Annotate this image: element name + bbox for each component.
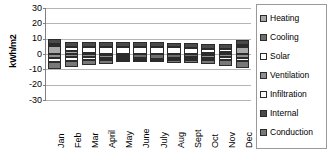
legend-item-label: Cooling bbox=[270, 33, 299, 42]
y-tick-label: -20 bbox=[14, 80, 42, 89]
bar-segment bbox=[150, 47, 164, 54]
bar-segment bbox=[150, 60, 164, 62]
legend-item-heating[interactable]: Heating bbox=[260, 9, 324, 28]
bar-segment bbox=[116, 47, 130, 54]
bar-column bbox=[116, 8, 130, 100]
x-tick-label: July bbox=[160, 132, 169, 148]
bar-column bbox=[48, 8, 62, 100]
bar-column bbox=[65, 8, 79, 100]
x-tick-label: Dec bbox=[245, 132, 254, 148]
y-tick-label: 30 bbox=[14, 4, 42, 13]
bar-column bbox=[167, 8, 181, 100]
bar-column bbox=[236, 8, 250, 100]
x-tick-label: May bbox=[125, 131, 134, 148]
bar-segment bbox=[48, 62, 62, 69]
legend-item-infiltration[interactable]: Infiltration bbox=[260, 85, 324, 104]
bar-segment bbox=[167, 43, 181, 48]
legend-item-label: Internal bbox=[270, 109, 298, 118]
bar-segment bbox=[201, 49, 215, 53]
bar-segment bbox=[133, 42, 147, 47]
bar-column bbox=[150, 8, 164, 100]
y-tick-label: -10 bbox=[14, 65, 42, 74]
x-tick-label: Sept bbox=[194, 129, 203, 148]
legend-swatch-icon bbox=[260, 91, 267, 98]
bar-segment bbox=[82, 47, 96, 52]
x-tick-label: Nov bbox=[228, 132, 237, 148]
x-tick-label: April bbox=[108, 130, 117, 148]
x-tick-label: June bbox=[142, 128, 151, 148]
legend-swatch-icon bbox=[260, 129, 267, 136]
bar-segment bbox=[184, 43, 198, 48]
legend-item-ventilation[interactable]: Ventilation bbox=[260, 66, 324, 85]
bar-column bbox=[184, 8, 198, 100]
bar-segment bbox=[133, 60, 147, 62]
bar-column bbox=[219, 8, 233, 100]
bar-segment bbox=[167, 47, 181, 54]
legend-swatch-icon bbox=[260, 53, 267, 60]
chart-legend: HeatingCoolingSolarVentilationInfiltrati… bbox=[256, 4, 327, 149]
bar-segment bbox=[99, 42, 113, 47]
bar-segment bbox=[236, 47, 250, 54]
bar-segment bbox=[236, 45, 250, 47]
bar-column bbox=[82, 8, 96, 100]
bar-segment bbox=[219, 60, 233, 66]
legend-swatch-icon bbox=[260, 15, 267, 22]
legend-item-solar[interactable]: Solar bbox=[260, 47, 324, 66]
legend-item-label: Heating bbox=[270, 14, 299, 23]
x-tick-label: Aug bbox=[177, 132, 186, 148]
legend-item-label: Solar bbox=[270, 52, 290, 61]
y-tick-label: 10 bbox=[14, 34, 42, 43]
bar-segment bbox=[201, 60, 215, 64]
x-tick-label: Feb bbox=[74, 132, 83, 148]
bar-segment bbox=[219, 49, 233, 52]
x-tick-label: Jan bbox=[57, 133, 66, 148]
bar-segment bbox=[133, 47, 147, 54]
bar-segment bbox=[99, 47, 113, 53]
plot-area bbox=[45, 8, 250, 100]
legend-swatch-icon bbox=[260, 72, 267, 79]
legend-item-internal[interactable]: Internal bbox=[260, 104, 324, 123]
legend-item-label: Conduction bbox=[270, 128, 313, 137]
bar-segment bbox=[167, 60, 181, 62]
bar-column bbox=[99, 8, 113, 100]
bar-segment bbox=[65, 42, 79, 47]
bar-segment bbox=[236, 61, 250, 68]
bars-layer bbox=[46, 8, 251, 100]
x-axis-tick-labels: JanFebMarAprilMayJuneJulyAugSeptOctNovDe… bbox=[45, 100, 250, 153]
stacked-column-chart: kWh/m2 3020100-10-20-30 JanFebMarAprilMa… bbox=[0, 0, 330, 153]
y-tick-label: 20 bbox=[14, 19, 42, 28]
x-tick-label: Mar bbox=[91, 133, 100, 149]
legend-item-cooling[interactable]: Cooling bbox=[260, 28, 324, 47]
bar-segment bbox=[219, 44, 233, 49]
bar-segment bbox=[236, 40, 250, 45]
bar-segment bbox=[201, 44, 215, 49]
bar-segment bbox=[99, 60, 113, 64]
y-tick-label: 0 bbox=[14, 50, 42, 59]
legend-item-conduction[interactable]: Conduction bbox=[260, 123, 324, 142]
x-tick-label: Oct bbox=[211, 134, 220, 148]
bar-segment bbox=[82, 60, 96, 65]
bar-segment bbox=[116, 42, 130, 47]
bar-segment bbox=[184, 60, 198, 63]
y-axis-tick-labels: 3020100-10-20-30 bbox=[14, 0, 42, 110]
bar-segment bbox=[184, 48, 198, 54]
legend-item-label: Ventilation bbox=[270, 71, 309, 80]
bar-segment bbox=[65, 47, 79, 51]
legend-swatch-icon bbox=[260, 110, 267, 117]
legend-swatch-icon bbox=[260, 34, 267, 41]
bar-segment bbox=[150, 42, 164, 47]
bar-segment bbox=[116, 60, 130, 63]
bar-segment bbox=[48, 39, 62, 44]
bar-segment bbox=[65, 61, 79, 67]
bar-segment bbox=[48, 44, 62, 46]
bar-column bbox=[201, 8, 215, 100]
bar-segment bbox=[48, 46, 62, 54]
bar-segment bbox=[82, 42, 96, 47]
bar-column bbox=[133, 8, 147, 100]
y-tick-label: -30 bbox=[14, 96, 42, 105]
legend-item-label: Infiltration bbox=[270, 90, 307, 99]
